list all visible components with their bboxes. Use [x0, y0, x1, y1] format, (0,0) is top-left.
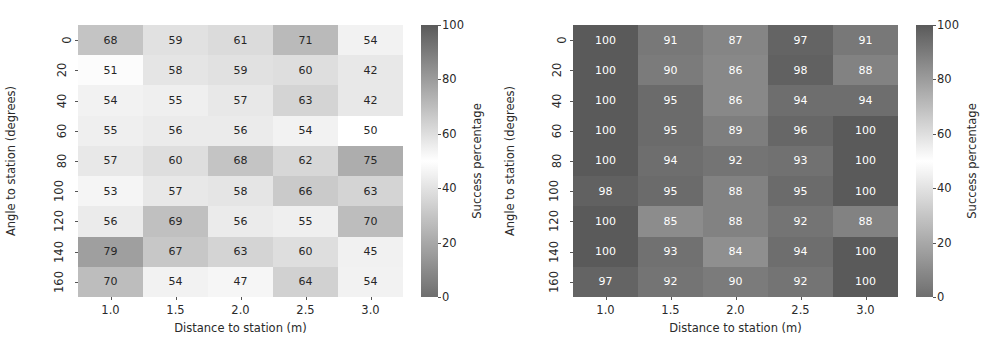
y-tick-text: 0	[59, 36, 73, 43]
heatmap-cell: 100	[573, 85, 638, 115]
y-tick-left-120: 120	[40, 206, 74, 236]
heatmap-cell: 88	[833, 55, 898, 85]
x-tick-right-3.0: 3.0	[833, 303, 898, 317]
heatmap-cell: 100	[573, 206, 638, 236]
heatmap-cell: 87	[703, 25, 768, 55]
heatmap-cell: 94	[768, 237, 833, 267]
heatmap-cell: 45	[338, 237, 403, 267]
y-tick-text: 160	[52, 271, 66, 293]
y-tick-right-160: 160	[535, 267, 569, 297]
y-tick-text: 120	[52, 210, 66, 232]
heatmap-cell: 75	[338, 146, 403, 176]
y-axis-label-right: Angle to station (degrees)	[501, 25, 519, 297]
heatmap-cell: 94	[638, 146, 703, 176]
x-tick-right-1.5: 1.5	[638, 303, 703, 317]
colorbar-tick-right-20: 20	[937, 236, 952, 250]
colorbar-tick-right-60: 60	[937, 127, 952, 141]
x-tickmark-right-2.5	[801, 297, 802, 300]
y-tickmark-right-100	[570, 191, 573, 192]
colorbar-tick-left-100: 100	[442, 18, 464, 32]
heatmap-cell: 57	[78, 146, 143, 176]
heatmap-cell: 86	[703, 55, 768, 85]
colorbar-tickmark-left-100	[438, 25, 441, 26]
heatmap-cell: 91	[833, 25, 898, 55]
x-tick-right-2.5: 2.5	[768, 303, 833, 317]
heatmap-cell: 70	[338, 206, 403, 236]
x-tick-left-1.0: 1.0	[78, 303, 143, 317]
colorbar-tickmark-left-60	[438, 134, 441, 135]
colorbar-tick-left-60: 60	[442, 127, 457, 141]
heatmap-cell: 93	[638, 237, 703, 267]
heatmap-cell: 98	[573, 176, 638, 206]
x-tick-right-2.0: 2.0	[703, 303, 768, 317]
heatmap-cell: 56	[78, 206, 143, 236]
heatmap-cell: 61	[208, 25, 273, 55]
colorbar-tickmark-right-40	[933, 188, 936, 189]
heatmap-cell: 100	[833, 176, 898, 206]
y-tick-right-60: 60	[535, 116, 569, 146]
y-tick-left-80: 80	[40, 146, 74, 176]
heatmap-cell: 63	[338, 176, 403, 206]
heatmap-cell: 56	[143, 116, 208, 146]
heatmap-cell: 84	[703, 237, 768, 267]
colorbar-left	[421, 25, 438, 297]
heatmap-cell: 100	[833, 267, 898, 297]
x-tick-left-1.5: 1.5	[143, 303, 208, 317]
y-tick-left-40: 40	[40, 85, 74, 115]
heatmap-cell: 69	[143, 206, 208, 236]
heatmap-cell: 55	[143, 85, 208, 115]
colorbar-tick-left-80: 80	[442, 72, 457, 86]
heatmap-cell: 94	[833, 85, 898, 115]
colorbar-tickmark-left-0	[438, 297, 441, 298]
heatmap-cell: 58	[143, 55, 208, 85]
y-tickmark-left-160	[75, 282, 78, 283]
colorbar-tickmark-left-80	[438, 79, 441, 80]
heatmap-cell: 57	[208, 85, 273, 115]
x-tickmark-left-3.0	[371, 297, 372, 300]
heatmap-cell: 88	[703, 206, 768, 236]
y-tickmark-left-40	[75, 101, 78, 102]
y-tick-right-80: 80	[535, 146, 569, 176]
y-tickmark-right-160	[570, 282, 573, 283]
heatmap-panel-right: Angle to station (degrees) 0204060801001…	[495, 0, 990, 350]
y-tickmark-left-100	[75, 191, 78, 192]
heatmap-cell: 100	[573, 146, 638, 176]
heatmap-cell: 54	[338, 25, 403, 55]
y-tickmark-left-140	[75, 252, 78, 253]
colorbar-tick-right-40: 40	[937, 181, 952, 195]
x-tick-left-2.5: 2.5	[273, 303, 338, 317]
x-tickmark-left-2.5	[306, 297, 307, 300]
heatmap-cell: 50	[338, 116, 403, 146]
colorbar-tick-right-100: 100	[937, 18, 959, 32]
heatmap-cell: 92	[768, 206, 833, 236]
y-tickmark-left-0	[75, 40, 78, 41]
heatmap-cell: 68	[78, 25, 143, 55]
x-tickmark-right-3.0	[866, 297, 867, 300]
heatmap-cell: 90	[638, 55, 703, 85]
y-tickmark-left-80	[75, 161, 78, 162]
y-tick-left-0: 0	[40, 25, 74, 55]
y-tick-text: 20	[56, 63, 70, 78]
heatmap-cell: 51	[78, 55, 143, 85]
heatmap-cell: 42	[338, 55, 403, 85]
y-tickmark-left-120	[75, 221, 78, 222]
heatmap-grid-left: 6859617154515859604254555763425556565450…	[78, 25, 403, 297]
heatmap-cell: 93	[768, 146, 833, 176]
y-tick-text: 60	[56, 123, 70, 138]
heatmap-cell: 62	[273, 146, 338, 176]
heatmap-cell: 56	[208, 206, 273, 236]
heatmap-cell: 68	[208, 146, 273, 176]
y-tick-text: 140	[547, 241, 561, 263]
y-tick-labels-right: 020406080100120140160	[535, 25, 569, 297]
colorbar-tickmark-right-0	[933, 297, 936, 298]
heatmap-cell: 88	[833, 206, 898, 236]
heatmap-cell: 60	[273, 237, 338, 267]
heatmap-cell: 47	[208, 267, 273, 297]
y-tick-left-60: 60	[40, 116, 74, 146]
x-tick-labels-left: 1.01.52.02.53.0	[78, 303, 403, 317]
colorbar-label-right: Success percentage	[963, 25, 981, 297]
y-tickmark-right-140	[570, 252, 573, 253]
colorbar-right	[916, 25, 933, 297]
y-tickmark-right-120	[570, 221, 573, 222]
heatmap-cell: 97	[768, 25, 833, 55]
